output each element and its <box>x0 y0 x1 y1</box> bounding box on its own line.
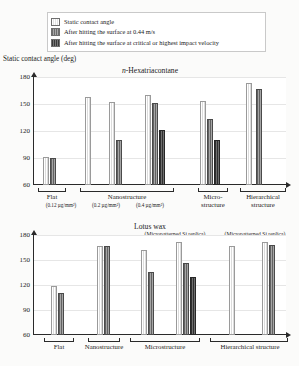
gridline <box>33 77 286 78</box>
bar-top-flat-044 <box>50 158 56 185</box>
group-bracket-top <box>38 188 66 192</box>
bar-bottom-hier-si-static <box>262 242 268 335</box>
bar-bottom-micro-si-044 <box>183 263 189 335</box>
group-bracket-bottom <box>44 338 74 342</box>
panel-title-top: n-Hexatriacontane <box>70 66 230 75</box>
y-tick-label: 60 <box>8 181 30 189</box>
legend: Static contact angle After hitting the s… <box>47 12 266 52</box>
bar-bottom-nano-044 <box>104 246 110 335</box>
legend-item: Static contact angle <box>51 17 261 27</box>
light-striped-swatch <box>51 18 60 26</box>
y-axis-arrow-bottom <box>31 230 37 235</box>
x-axis-arrow-bottom <box>286 332 291 338</box>
bar-top-micro-044 <box>207 119 213 185</box>
y-tick-label: 120 <box>8 281 30 289</box>
y-axis-line-top <box>33 77 34 185</box>
x-axis-arrow-top <box>286 182 291 188</box>
bar-top-nano04-044 <box>152 103 158 185</box>
gridline <box>33 235 286 236</box>
legend-item-label: After hitting the surface at 0.44 m/s <box>64 28 155 36</box>
y-tick-label: 180 <box>8 73 30 81</box>
group-bracket-bottom <box>210 338 288 342</box>
bar-bottom-flat-044 <box>58 293 64 335</box>
group-sublabel-density-012: (0.12 µg/mm²) <box>37 202 85 209</box>
y-tick-label: 120 <box>8 127 30 135</box>
y-axis-line-bottom <box>33 235 34 335</box>
bar-bottom-flat-static <box>51 286 57 335</box>
plot-area-bottom <box>33 235 286 335</box>
gridline <box>33 285 286 286</box>
plot-area-top <box>33 77 286 185</box>
group-label-top-hierarchical: Hierarchicalstructure <box>237 193 289 209</box>
group-label-bottom-hierarchical: Hierarchical structure <box>211 343 289 351</box>
group-sublabel-density-02: (0.2 µg/mm²) <box>84 202 128 209</box>
legend-item: After hitting the surface at 0.44 m/s <box>51 27 261 37</box>
bar-top-hier-static <box>246 83 252 185</box>
x-axis-line-bottom <box>33 334 286 335</box>
medium-striped-swatch <box>51 28 60 36</box>
y-tick-label: 150 <box>8 256 30 264</box>
bar-bottom-micro-lotus-static <box>141 250 147 335</box>
bar-top-nano04-critical <box>159 130 165 185</box>
y-tick-label: 60 <box>8 331 30 339</box>
group-bracket-bottom <box>88 338 120 342</box>
bar-bottom-micro-lotus-044 <box>148 272 154 335</box>
bar-top-nano02-044 <box>116 140 122 185</box>
bar-bottom-nano-static <box>97 246 103 335</box>
bar-top-nano04-static <box>145 95 151 185</box>
legend-item-label: After hitting the surface at critical or… <box>64 39 219 47</box>
group-bracket-top <box>80 188 174 192</box>
group-label-top-nanostructure: Nanostructure <box>92 193 162 201</box>
group-label-bottom-nanostructure: Nanostructure <box>74 343 134 351</box>
group-sublabel-density-04: (0.4 µg/mm²) <box>128 202 172 209</box>
y-tick-label: 150 <box>8 100 30 108</box>
bar-top-micro-critical <box>214 140 220 185</box>
bar-bottom-micro-si-critical <box>190 277 196 335</box>
y-tick-label: 90 <box>8 154 30 162</box>
figure-container: Static contact angle After hitting the s… <box>0 0 299 366</box>
bar-bottom-hier-lotus-static <box>229 246 235 335</box>
y-axis-title-top: Static contact angle (deg) <box>3 55 76 63</box>
legend-item-label: Static contact angle <box>64 18 114 26</box>
group-bracket-top <box>240 188 286 192</box>
bar-top-flat-static <box>43 157 49 185</box>
y-tick-label: 90 <box>8 306 30 314</box>
bar-top-nano02-static <box>109 102 115 185</box>
group-bracket-bottom <box>130 338 200 342</box>
bar-bottom-micro-si-static <box>176 242 182 335</box>
bar-top-hier-044 <box>256 89 262 185</box>
bar-bottom-hier-si-044 <box>269 245 275 335</box>
group-label-top-flat: Flat <box>28 193 76 201</box>
y-axis-arrow-top <box>31 72 37 77</box>
group-label-bottom-microstructure: Microstructure <box>134 343 196 351</box>
group-bracket-top <box>198 188 228 192</box>
group-label-top-microstructure: Micro-structure <box>193 193 233 209</box>
gridline <box>33 260 286 261</box>
gridline <box>33 310 286 311</box>
y-tick-label: 180 <box>8 231 30 239</box>
panel-title-bottom: Lotus wax <box>100 222 200 231</box>
panel-title-top-rest: -Hexatriacontane <box>126 66 178 75</box>
bar-top-micro-static <box>200 101 206 185</box>
dark-striped-swatch <box>51 39 60 47</box>
bar-top-nano012-static <box>85 97 91 185</box>
legend-item: After hitting the surface at critical or… <box>51 38 261 48</box>
